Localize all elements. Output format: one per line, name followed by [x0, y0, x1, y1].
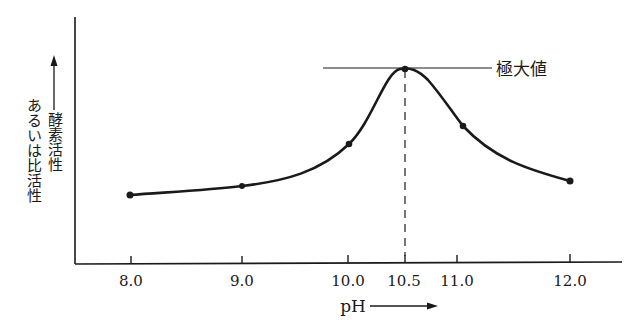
data-point: [402, 66, 409, 73]
x-tick-label: 10.0: [331, 272, 364, 290]
data-point: [346, 141, 353, 148]
x-tick-label: 11.0: [440, 272, 473, 290]
data-point: [127, 192, 134, 199]
x-axis-arrowhead-icon: [427, 303, 438, 310]
data-points: [127, 66, 574, 199]
data-point: [567, 178, 574, 185]
x-tick-label: 12.0: [553, 272, 586, 290]
x-tick-label: 8.0: [119, 272, 143, 290]
ph-activity-chart: 8.0 9.0 10.0 10.5 11.0 12.0 pH 酵素活性 あるいは…: [0, 0, 640, 336]
data-point: [460, 123, 467, 130]
x-tick-label: 10.5: [387, 272, 420, 290]
y-axis-title-line2: あるいは比活性: [24, 98, 42, 203]
x-tick-label: 9.0: [230, 272, 254, 290]
data-point: [239, 183, 245, 189]
y-axis-title-line1: 酵素活性: [45, 112, 63, 172]
x-axis-title: pH: [340, 296, 366, 316]
activity-curve: [130, 68, 570, 195]
y-axis-arrowhead-icon: [51, 55, 58, 66]
peak-label: 極大値: [496, 59, 547, 79]
